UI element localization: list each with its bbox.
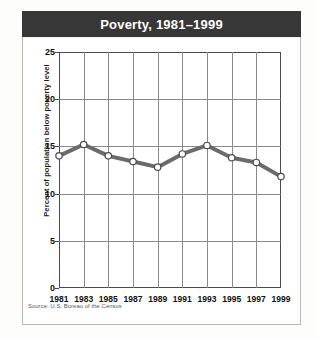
data-point-marker: [130, 158, 136, 164]
chart-page: Poverty, 1981–1999 Percent of population…: [0, 0, 317, 339]
data-point-marker: [278, 173, 284, 179]
data-point-marker: [179, 151, 185, 157]
page-title: Poverty, 1981–1999: [100, 17, 223, 32]
x-tick-label: 1989: [148, 294, 167, 304]
y-tick-mark: [55, 288, 59, 289]
data-point-marker: [56, 153, 62, 159]
x-tick-label: 1999: [272, 294, 291, 304]
data-point-marker: [253, 159, 259, 165]
plot-area: 0510152025 19811983198519871989199119931…: [59, 52, 281, 288]
data-point-marker: [228, 155, 234, 161]
y-tick-label: 20: [45, 94, 55, 104]
chart-card: Percent of population below poverty leve…: [23, 38, 300, 324]
y-tick-label: 15: [45, 141, 55, 151]
x-tick-label: 1987: [124, 294, 143, 304]
data-point-marker: [204, 142, 210, 148]
data-point-marker: [80, 141, 86, 147]
x-tick-label: 1993: [198, 294, 217, 304]
y-tick-label: 10: [45, 189, 55, 199]
data-point-marker: [154, 164, 160, 170]
x-tick-label: 1995: [222, 294, 241, 304]
poverty-rate-series: [59, 52, 281, 288]
x-tick-label: 1991: [173, 294, 192, 304]
source-note: Source: U.S. Bureau of the Census: [28, 303, 122, 309]
data-point-marker: [105, 153, 111, 159]
y-tick-label: 25: [45, 47, 55, 57]
series-line: [59, 145, 281, 177]
x-tick-label: 1997: [247, 294, 266, 304]
chart-title-bar: Poverty, 1981–1999: [22, 11, 301, 37]
